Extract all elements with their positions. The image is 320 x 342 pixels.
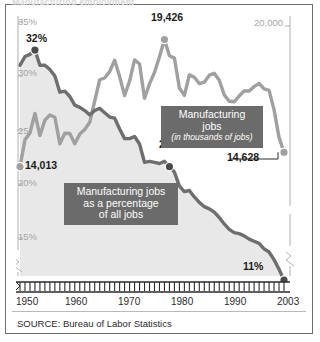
annotation-jobs-peak: 19,426 [151,12,183,23]
legend-pct-line3: of all jobs [71,209,171,221]
legend-pct-line1: Manufacturing jobs [71,186,171,198]
y-axis-left-tick-1: 30% [18,68,37,78]
source-note: SOURCE: Bureau of Labor Statistics [17,318,172,329]
x-axis-ticks [16,282,290,292]
legend-jobs-line1: Manufacturing jobs [168,109,256,132]
x-axis-label-3: 1980 [171,296,193,308]
x-axis-label-1: 1960 [65,296,87,308]
y-axis-left-tick-3: 20% [18,178,37,188]
clipped-headline: Manufacturing employment [12,0,282,5]
legend-callout-percent: Manufacturing jobs as a percentage of al… [64,183,178,225]
x-axis [16,281,302,297]
y-axis-left-tick-4: 15% [18,232,37,242]
y-axis-left-tick-0: 35% [18,17,37,27]
x-axis-label-5: 2003 [277,296,299,308]
annotation-jobs-start: 14,013 [25,160,57,171]
x-axis-labels: 1950 1960 1970 1980 1990 2003 [16,296,306,310]
y-axis-right-tick-0: 20,000 [254,18,283,28]
legend-callout-jobs: Manufacturing jobs (in thousands of jobs… [161,106,263,148]
chart-figure: Manufacturing employment 35% 30% 25 20% … [0,0,320,342]
y-axis-left-tick-2: 25 [18,126,29,136]
x-axis-label-0: 1950 [16,296,38,308]
x-axis-label-2: 1970 [118,296,140,308]
x-axis-label-4: 1990 [224,296,246,308]
percent-area-fill [20,50,284,280]
annotation-jobs-end: 14,628 [227,152,259,163]
legend-jobs-line2: (in thousands of jobs) [168,132,256,144]
annotation-pct-start: 32% [26,33,47,44]
source-divider [12,311,306,312]
annotation-pct-end: 11% [243,261,263,272]
